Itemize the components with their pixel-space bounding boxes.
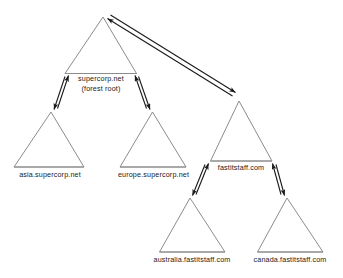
domain-label-europe: europe.supercorp.net [105,170,202,179]
triangle-canada [258,198,324,252]
triangle-forest-root [65,17,137,74]
trust-arrow-fastitstaff-canada [273,164,285,196]
domain-label-forest-root-line1: supercorp.net [65,74,137,84]
diagram-canvas [0,0,343,278]
domain-label-forest-root-line2: (forest root) [65,84,137,94]
domain-label-australia: australia.fastitstaff.com [140,255,244,264]
domain-label-canada: canada.fastitstaff.com [241,255,339,264]
domain-label-fastitstaff: fastitstaff.com [209,163,273,172]
domain-label-forest-root: supercorp.net (forest root) [65,74,137,93]
forest-trust-diagram: supercorp.net (forest root) asia.superco… [0,0,343,278]
triangle-fastitstaff [211,101,273,161]
triangle-asia [14,112,84,167]
trust-arrow-root-europe [135,76,150,110]
domain-label-asia: asia.supercorp.net [4,170,96,179]
trust-arrow-fastitstaff-australia [193,164,209,196]
triangle-europe [120,112,186,167]
triangle-australia [160,198,226,252]
